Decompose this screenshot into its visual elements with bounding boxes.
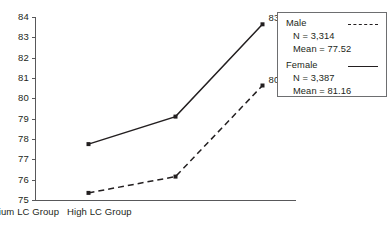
legend-item-male-name: Male (286, 18, 307, 28)
legend-item-male-n: N = 3,314 (293, 31, 334, 41)
legend-item-female-mean: Mean = 81.16 (293, 86, 351, 96)
legend-item-male-mean: Mean = 77.52 (293, 44, 351, 54)
legend-item-female-n: N = 3,387 (293, 73, 334, 83)
legend-swatch-male-dashed (348, 24, 378, 25)
data-point-male-2 (261, 84, 265, 88)
legend-item-female-name: Female (286, 60, 318, 70)
data-point-female-1 (174, 115, 178, 119)
data-point-male-1 (174, 175, 178, 179)
legend-swatch-female-solid (348, 66, 378, 67)
chart-figure: 75767778798081828384 Low LC GroupMedium … (0, 0, 391, 238)
chart-legend: Male N = 3,314 Mean = 77.52 Female N = 3… (277, 12, 387, 97)
data-point-female-0 (87, 142, 91, 146)
series-line-female (89, 24, 263, 144)
data-point-female-2 (261, 22, 265, 26)
data-point-male-0 (87, 191, 91, 195)
